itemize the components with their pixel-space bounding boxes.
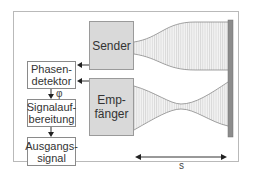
phase-detector-label: Phasen- detektor (31, 63, 72, 87)
transmitted-wave (134, 22, 228, 70)
phase-detector-block: Phasen- detektor (27, 61, 76, 89)
distance-arrow-right (221, 154, 227, 160)
sender-block: Sender (89, 21, 134, 70)
arrow-sender-to-detector (77, 62, 82, 68)
reflected-wave (134, 82, 228, 130)
distance-arrow-left (135, 154, 141, 160)
distance-label: s (179, 160, 184, 171)
phase-label: φ (56, 88, 62, 99)
sender-label: Sender (92, 39, 131, 53)
output-signal-label: Ausgangs- signal (25, 140, 78, 164)
arrow-receiver-to-detector (77, 78, 82, 84)
reflector (228, 20, 233, 137)
output-signal-block: Ausgangs- signal (27, 137, 76, 166)
receiver-block: Emp- fänger (89, 78, 134, 136)
signal-processing-block: Signalauf- bereitung (27, 99, 76, 127)
signal-processing-label: Signalauf- bereitung (27, 101, 77, 125)
receiver-label: Emp- fänger (94, 93, 128, 121)
